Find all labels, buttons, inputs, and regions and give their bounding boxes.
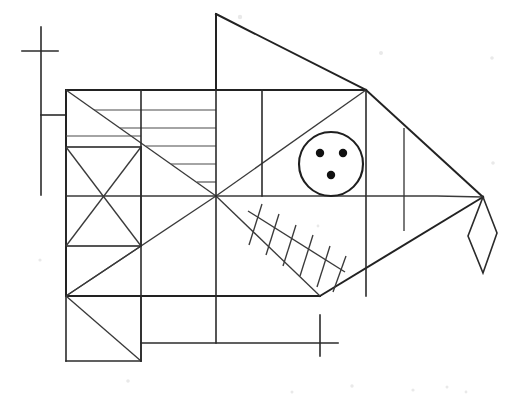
- fish-line-drawing: Geometric Fish Line Drawing Black-and-wh…: [0, 0, 520, 404]
- eye-dot-left: [316, 149, 324, 157]
- eye-dot-right: [339, 149, 347, 157]
- eye-dot-bottom: [327, 171, 335, 179]
- figure-canvas: Geometric Fish Line Drawing Black-and-wh…: [0, 0, 520, 404]
